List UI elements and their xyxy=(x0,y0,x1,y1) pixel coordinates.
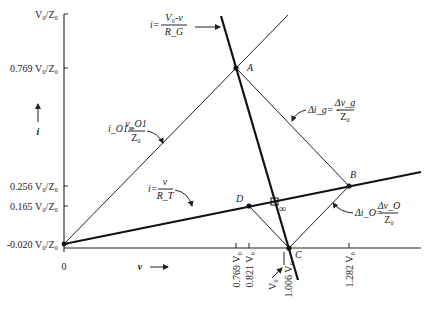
x-origin-label: 0 xyxy=(62,261,67,272)
bergeron-diagram: V₀/Z₀ 0.769 V₀/Z₀ 0.256 V₀/Z₀ 0.165 V₀/Z… xyxy=(0,0,429,317)
x-tick-label: 1.282 V₀ xyxy=(344,251,355,287)
generator-load-line xyxy=(221,16,298,280)
path-b-c xyxy=(289,186,349,248)
y-tick-label: -0.020 V₀/Z₀ xyxy=(7,239,59,250)
svg-text:C: C xyxy=(295,249,302,260)
svg-text:Δv_g: Δv_g xyxy=(334,97,355,108)
v0-arrow-icon xyxy=(272,268,282,278)
pointer-arrow-icon xyxy=(175,190,192,206)
svg-text:B: B xyxy=(350,169,356,180)
y-tick-label: 0.165 V₀/Z₀ xyxy=(10,201,58,212)
svg-text:Z₀: Z₀ xyxy=(384,214,394,225)
y-tick-label: V₀/Z₀ xyxy=(35,9,59,20)
y-tick-label: 0.256 V₀/Z₀ xyxy=(10,181,58,192)
svg-text:v: v xyxy=(163,176,168,187)
delta-io-equation: Δi_O= Δv_O Z₀ xyxy=(333,200,400,225)
svg-text:i=: i= xyxy=(150,19,160,30)
svg-text:A: A xyxy=(246,62,254,73)
x-axis-label: v xyxy=(138,261,143,272)
x-tick-label: 0.769 V₀ xyxy=(231,251,242,287)
x-tick-label: 1.006 V₀ xyxy=(283,261,294,297)
v0-marker-label: V₀ xyxy=(267,279,278,290)
svg-text:Z₀: Z₀ xyxy=(131,132,141,143)
svg-text:Δv_O: Δv_O xyxy=(377,200,401,211)
svg-text:R_T: R_T xyxy=(156,190,175,201)
y-axis-label: i xyxy=(37,126,40,137)
svg-text:R_G: R_G xyxy=(164,26,183,37)
svg-text:∞: ∞ xyxy=(279,203,286,214)
pointer-arrow-icon xyxy=(147,131,163,143)
y-tick-label: 0.769 V₀/Z₀ xyxy=(10,63,58,74)
svg-text:V₀-v: V₀-v xyxy=(165,12,183,23)
generator-line-equation: i= V₀-v R_G xyxy=(150,12,220,37)
load-line-equation: i= v R_T xyxy=(148,176,192,206)
delta-ig-equation: Δi_g= - Δv_g Z₀ xyxy=(292,97,355,122)
svg-text:D: D xyxy=(235,193,244,204)
origin-point xyxy=(62,242,67,247)
svg-text:Z₀: Z₀ xyxy=(340,111,350,122)
pointer-arrow-icon xyxy=(292,110,306,121)
pointer-arrow-icon xyxy=(333,203,353,213)
svg-text:v_O1: v_O1 xyxy=(125,118,147,129)
point-d: D xyxy=(235,193,252,209)
x-tick-label: 0.821 V₀ xyxy=(244,251,255,287)
io1-equation: i_O1= v_O1 Z₀ xyxy=(108,118,163,143)
y-axis-ticks xyxy=(64,14,68,244)
